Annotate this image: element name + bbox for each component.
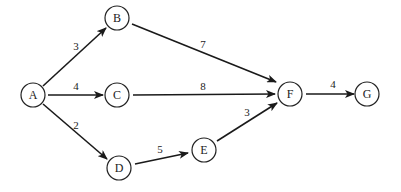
node-g: G <box>355 82 379 106</box>
edge-weight-c-f: 8 <box>200 80 206 92</box>
node-label-e: E <box>200 143 207 157</box>
node-label-b: B <box>113 11 121 25</box>
node-label-c: C <box>113 88 121 102</box>
edge-b-f <box>132 24 276 82</box>
network-diagram: 3 4 2 7 8 5 3 4 A B C D E <box>0 0 401 192</box>
node-e: E <box>192 138 216 162</box>
edge-weight-f-g: 4 <box>330 78 336 90</box>
node-label-a: A <box>29 88 38 102</box>
node-label-g: G <box>363 87 372 101</box>
node-label-f: F <box>287 87 294 101</box>
edge-weight-a-c: 4 <box>73 80 79 92</box>
node-a: A <box>21 83 45 107</box>
edge-c-f <box>133 94 275 95</box>
edge-weight-a-d: 2 <box>73 119 79 131</box>
edge-weight-b-f: 7 <box>200 38 206 50</box>
edge-a-d <box>43 104 107 159</box>
node-f: F <box>278 82 302 106</box>
node-c: C <box>105 83 129 107</box>
edge-weight-a-b: 3 <box>73 40 79 52</box>
edge-a-b <box>43 28 106 86</box>
node-b: B <box>105 6 129 30</box>
edge-weight-e-f: 3 <box>244 106 250 118</box>
edge-weight-d-e: 5 <box>157 143 163 155</box>
node-d: D <box>107 156 131 180</box>
node-label-d: D <box>115 161 124 175</box>
